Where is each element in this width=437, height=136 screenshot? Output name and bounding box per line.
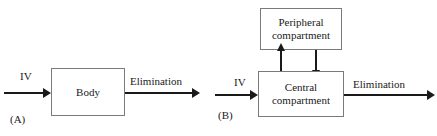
panel-b-central-to-peripheral-arrow bbox=[280, 50, 282, 71]
panel-a-body-box-label: Body bbox=[74, 86, 102, 99]
panel-b-peripheral-to-central-arrow bbox=[315, 50, 317, 71]
panel-b-two-compartment-model: Peripheralcompartment IV Centralcompartm… bbox=[218, 0, 437, 136]
panel-a-one-compartment-model: IV Body Elimination (A) bbox=[0, 0, 218, 136]
panel-b-central-box-line1: Central bbox=[285, 81, 317, 93]
panel-b-central-box-line2: compartment bbox=[272, 94, 330, 106]
panel-b-input-arrow bbox=[215, 94, 251, 96]
panel-a-output-label: Elimination bbox=[130, 75, 182, 87]
panel-b-output-label: Elimination bbox=[353, 78, 405, 90]
panel-b-peripheral-compartment-box: Peripheralcompartment bbox=[260, 8, 342, 50]
panel-b-central-box-label: Centralcompartment bbox=[270, 81, 332, 106]
panel-a-tag: (A) bbox=[10, 113, 25, 125]
panel-b-elimination-arrow bbox=[344, 94, 428, 96]
panel-a-input-label: IV bbox=[20, 70, 32, 82]
panel-b-central-compartment-box: Centralcompartment bbox=[258, 71, 344, 117]
panel-a-elimination-arrow bbox=[125, 92, 193, 94]
panel-a-input-arrow bbox=[4, 92, 44, 94]
panel-b-peripheral-box-line2: compartment bbox=[272, 29, 330, 41]
panel-b-peripheral-box-line1: Peripheral bbox=[278, 16, 323, 28]
pharmacokinetic-compartment-diagram: IV Body Elimination (A) Peripheralcompar… bbox=[0, 0, 437, 136]
panel-a-body-box: Body bbox=[51, 68, 125, 116]
panel-b-input-label: IV bbox=[234, 76, 246, 88]
panel-b-tag: (B) bbox=[218, 109, 233, 121]
panel-b-peripheral-box-label: Peripheralcompartment bbox=[270, 16, 332, 41]
